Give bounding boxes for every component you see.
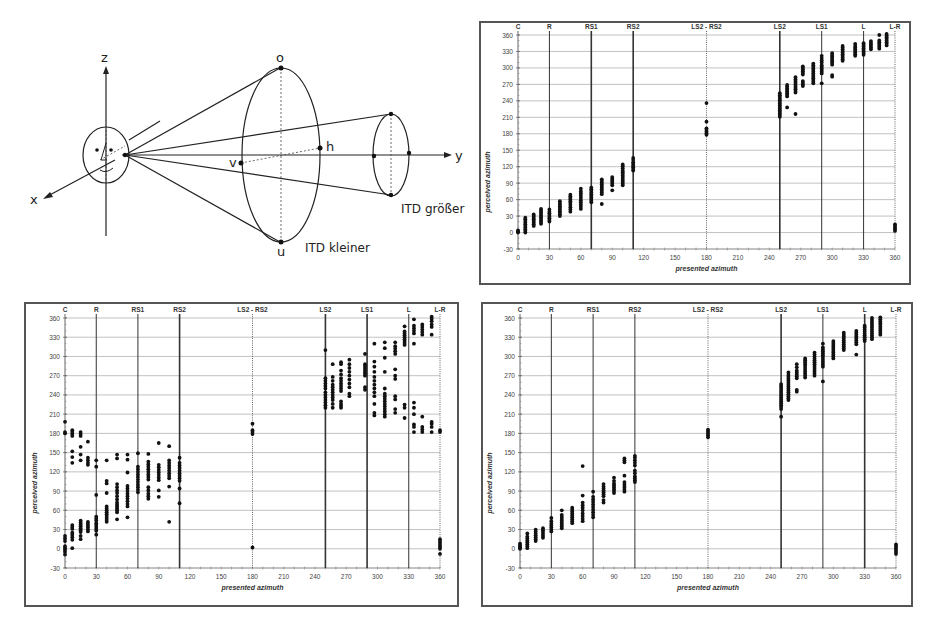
svg-text:90: 90 (508, 488, 516, 495)
speaker-label: LS2 (775, 306, 787, 313)
svg-text:300: 300 (504, 353, 515, 360)
svg-text:30: 30 (548, 573, 556, 580)
speaker-label: R (549, 306, 554, 313)
svg-text:300: 300 (828, 573, 839, 580)
svg-text:120: 120 (640, 573, 651, 580)
svg-text:270: 270 (504, 372, 515, 379)
svg-text:60: 60 (579, 573, 587, 580)
speaker-label: C (518, 306, 523, 313)
speaker-label: RS1 (587, 306, 600, 313)
speaker-label: LS2 - RS2 (693, 306, 724, 313)
svg-text:30: 30 (508, 526, 516, 533)
svg-text:330: 330 (859, 573, 870, 580)
svg-text:180: 180 (703, 573, 714, 580)
speaker-label: LS1 (817, 306, 829, 313)
svg-text:210: 210 (734, 573, 745, 580)
svg-text:360: 360 (504, 315, 515, 322)
x-axis-title: presented azimuth (676, 584, 739, 592)
speaker-label: L-R (891, 306, 902, 313)
svg-text:210: 210 (504, 411, 515, 418)
svg-text:270: 270 (797, 573, 808, 580)
speaker-label: L (863, 306, 867, 313)
svg-text:240: 240 (765, 573, 776, 580)
chart-frame (482, 303, 912, 606)
svg-text:60: 60 (508, 507, 516, 514)
svg-text:120: 120 (504, 468, 515, 475)
svg-text:150: 150 (671, 573, 682, 580)
svg-text:180: 180 (504, 430, 515, 437)
svg-text:150: 150 (504, 449, 515, 456)
svg-text:-30: -30 (506, 565, 516, 572)
y-axis-title: perceived azimuth (486, 452, 494, 514)
speaker-label: RS2 (629, 306, 642, 313)
svg-text:0: 0 (518, 573, 522, 580)
svg-text:330: 330 (504, 334, 515, 341)
scatter-chart-bottom-right: -300306090120150180210240270300330360030… (0, 0, 933, 617)
svg-text:240: 240 (504, 391, 515, 398)
svg-text:360: 360 (891, 573, 902, 580)
svg-text:90: 90 (610, 573, 618, 580)
svg-text:0: 0 (511, 545, 515, 552)
